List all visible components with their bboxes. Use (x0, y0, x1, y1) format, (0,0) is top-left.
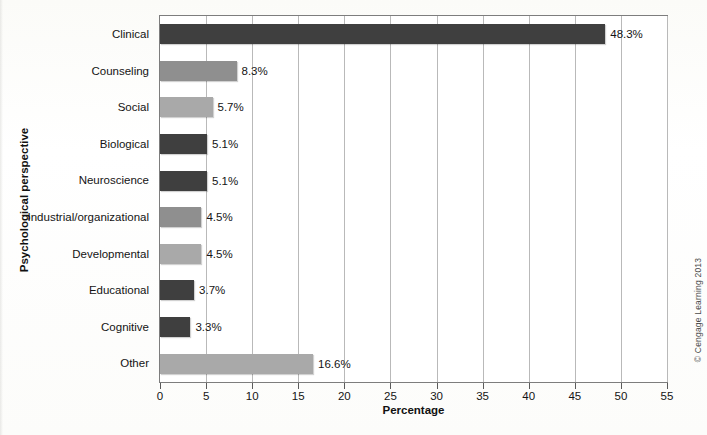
bar[interactable] (160, 134, 207, 154)
x-tick-label-55: 55 (661, 390, 674, 402)
category-label: Social (118, 89, 149, 126)
bar-row: 16.6% (160, 345, 667, 382)
bar-value-label: 3.3% (190, 317, 221, 337)
bar-value-label: 48.3% (605, 24, 643, 44)
category-label: Educational (89, 272, 149, 309)
category-label: Developmental (72, 236, 149, 273)
bar[interactable] (160, 317, 190, 337)
bar[interactable] (160, 354, 313, 374)
bar[interactable] (160, 171, 207, 191)
x-tick-label-45: 45 (568, 390, 581, 402)
copyright-credit: © Cengage Learning 2013 (691, 225, 705, 395)
category-label: Biological (100, 126, 149, 163)
bar[interactable] (160, 280, 194, 300)
category-label: Cognitive (101, 309, 149, 346)
x-tick-label-30: 30 (430, 390, 443, 402)
x-tick-mark-35 (483, 383, 484, 389)
x-tick-label-0: 0 (157, 390, 163, 402)
category-label: Counseling (91, 53, 149, 90)
bar-row: 48.3% (160, 16, 667, 53)
category-label: Clinical (112, 16, 149, 53)
bar-value-label: 4.5% (201, 244, 232, 264)
bar[interactable] (160, 97, 213, 117)
bar-value-label: 4.5% (201, 207, 232, 227)
bar-row: 5.1% (160, 126, 667, 163)
bar-chart-figure: Psychological perspective ClinicalCounse… (0, 0, 707, 435)
bar[interactable] (160, 244, 201, 264)
y-axis-category-labels: ClinicalCounselingSocialBiologicalNeuros… (0, 15, 154, 383)
bar-value-label: 5.1% (207, 171, 238, 191)
plot-area: 48.3%8.3%5.7%5.1%5.1%4.5%4.5%3.7%3.3%16.… (159, 15, 668, 383)
bar-row: 3.7% (160, 272, 667, 309)
x-tick-label-5: 5 (203, 390, 209, 402)
bar-value-label: 16.6% (313, 354, 351, 374)
figure-page: Psychological perspective ClinicalCounse… (0, 0, 707, 435)
x-tick-mark-50 (621, 383, 622, 389)
x-tick-label-35: 35 (476, 390, 489, 402)
gridline-55 (667, 16, 668, 382)
bar[interactable] (160, 61, 237, 81)
x-tick-mark-5 (206, 383, 207, 389)
x-tick-mark-30 (437, 383, 438, 389)
bar-row: 8.3% (160, 53, 667, 90)
bar-value-label: 3.7% (194, 280, 225, 300)
bar-value-label: 8.3% (237, 61, 268, 81)
bar-row: 4.5% (160, 199, 667, 236)
bar-row: 4.5% (160, 236, 667, 273)
x-tick-mark-0 (160, 383, 161, 389)
bar[interactable] (160, 24, 605, 44)
copyright-credit-text: © Cengage Learning 2013 (693, 258, 703, 362)
x-tick-mark-55 (667, 383, 668, 389)
x-tick-mark-25 (390, 383, 391, 389)
x-tick-mark-45 (575, 383, 576, 389)
x-tick-mark-40 (529, 383, 530, 389)
x-tick-label-50: 50 (615, 390, 628, 402)
bar-row: 5.7% (160, 89, 667, 126)
x-tick-mark-15 (298, 383, 299, 389)
x-axis-title: Percentage (159, 404, 668, 416)
x-tick-label-15: 15 (292, 390, 305, 402)
x-tick-label-20: 20 (338, 390, 351, 402)
x-tick-label-25: 25 (384, 390, 397, 402)
category-label: Other (120, 345, 149, 382)
x-tick-mark-20 (344, 383, 345, 389)
x-axis-ticks: 0510152025303540455055 (159, 383, 668, 405)
bar-value-label: 5.7% (213, 97, 244, 117)
x-tick-label-10: 10 (246, 390, 259, 402)
bar-row: 3.3% (160, 309, 667, 346)
category-label: Neuroscience (79, 162, 149, 199)
category-label: Industrial/organizational (28, 199, 149, 236)
bar-row: 5.1% (160, 162, 667, 199)
x-tick-label-40: 40 (522, 390, 535, 402)
x-tick-mark-10 (252, 383, 253, 389)
bar-value-label: 5.1% (207, 134, 238, 154)
bar[interactable] (160, 207, 201, 227)
